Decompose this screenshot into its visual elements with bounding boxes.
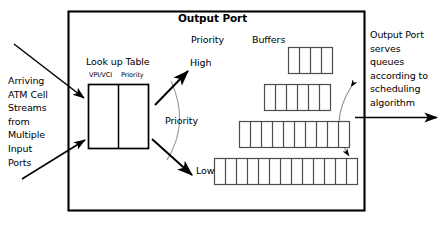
scheduling-annotation: Output Port serves queues according to s… [370,28,428,110]
high-priority-label: High [190,58,211,69]
priority-heading-label: Priority [191,35,224,46]
low-priority-label: Low [196,166,214,177]
arrow-to-low-priority [152,139,192,175]
priority-arc-label: Priority [165,116,198,127]
low-priority-queue [215,159,358,185]
diagram-canvas: Output Port Priority Buffers High Priori… [0,0,443,226]
buffers-label: Buffers [252,35,285,46]
lookup-column-vpi-vci: VPI/VCI [89,72,112,79]
lookup-column-priority: Priority [121,72,144,79]
second-queue [265,85,331,111]
high-priority-queue [289,48,333,74]
page-title: Output Port [178,13,247,25]
third-queue [240,122,350,148]
buffer-queues [215,48,358,185]
arriving-streams-annotation: Arriving ATM Cell Streams from Multiple … [8,74,48,169]
arrow-to-high-priority [155,71,188,105]
lookup-table-caption: Look up Table [86,57,150,68]
